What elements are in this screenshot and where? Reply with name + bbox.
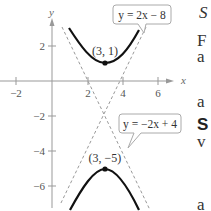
- callout-lower-text: y = −2x + 4: [123, 118, 177, 131]
- x-axis-arrow-icon: [166, 79, 174, 84]
- x-axis-label: x: [180, 74, 186, 86]
- vertex-point-upper: [102, 60, 107, 65]
- callout-upper-text: y = 2x − 8: [118, 9, 166, 22]
- y-tick-label: −6: [33, 180, 45, 192]
- x-tick-label: 6: [155, 87, 161, 99]
- callout-lower: y = −2x + 4: [119, 114, 181, 148]
- lower-branch: [70, 169, 139, 210]
- y-tick-label: −2: [33, 110, 45, 122]
- vertex-label-upper: (3, 1): [92, 44, 118, 58]
- x-tick-label: −2: [10, 87, 22, 99]
- vertex-point-lower: [102, 166, 107, 171]
- y-axis-label: y: [48, 6, 54, 18]
- y-axis-arrow-icon: [50, 18, 55, 26]
- x-tick-label: 4: [120, 87, 126, 99]
- side-text-a3: a: [197, 196, 205, 211]
- side-text-s1: S: [199, 4, 208, 21]
- x-tick-label: 2: [85, 87, 91, 99]
- callout-upper: y = 2x − 8: [113, 5, 171, 33]
- side-text-v: v: [197, 133, 206, 150]
- vertex-label-lower: (3, −5): [89, 151, 122, 165]
- side-text-a1: a: [197, 48, 205, 65]
- side-text-a2: a: [197, 93, 205, 110]
- side-text-s2: S: [197, 116, 208, 133]
- y-tick-label: −4: [33, 145, 45, 157]
- y-tick-label: 2: [40, 40, 46, 52]
- hyperbola-chart: −2 2 4 6 2 −2 −4 −6 x y (3, 1) (3, −5) y…: [0, 0, 211, 211]
